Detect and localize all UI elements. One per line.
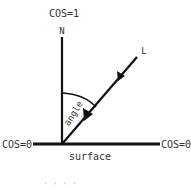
light-vector-line xyxy=(62,57,137,144)
cos-zero-right-label: COS=0 xyxy=(161,139,191,150)
lighting-diagram: COS=1 N L angle COS=0 COS=0 surface ' ' … xyxy=(0,0,191,189)
cos-zero-left-label: COS=0 xyxy=(2,139,32,150)
partial-caption: ' ' ' ' xyxy=(43,182,77,189)
normal-label: N xyxy=(59,26,64,36)
surface-label: surface xyxy=(69,151,111,162)
cos-one-label: COS=1 xyxy=(49,8,79,19)
light-label: L xyxy=(141,46,146,56)
angle-label: angle xyxy=(62,99,85,127)
